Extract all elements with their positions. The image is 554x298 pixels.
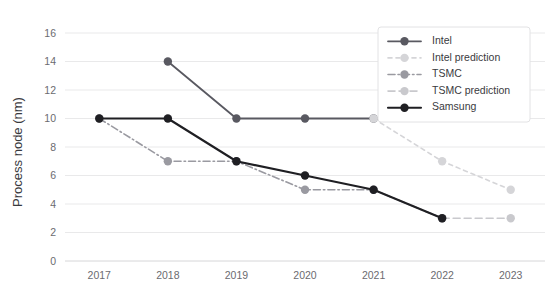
legend-marker-swatch [400,54,408,62]
y-axis-tick-label: 16 [44,27,56,39]
data-point [301,114,309,122]
x-axis-tick-label: 2019 [225,269,249,281]
series-intel-prediction [369,114,515,194]
x-axis-tick-label: 2023 [499,269,523,281]
data-point [438,214,446,222]
legend-marker-swatch [400,104,408,112]
y-axis-tick-labels: 0246810121416 [44,27,56,267]
y-axis-tick-label: 4 [50,198,56,210]
data-point [507,186,515,194]
data-point [369,114,377,122]
x-axis-tick-labels: 2017201820192020202120222023 [88,269,523,281]
chart-legend: IntelIntel predictionTSMCTSMC prediction… [378,27,530,122]
legend-item-label: TSMC [432,67,462,79]
data-point [301,171,309,179]
x-axis-tick-label: 2022 [430,269,454,281]
legend-item-label: Samsung [432,100,477,112]
data-point [232,114,240,122]
legend-marker-swatch [400,70,408,78]
data-point [95,114,103,122]
x-axis-tick-label: 2017 [88,269,112,281]
series-line [99,119,442,219]
y-axis-tick-label: 8 [50,141,56,153]
data-point [232,157,240,165]
y-axis-tick-label: 12 [44,84,56,96]
y-axis-tick-label: 2 [50,226,56,238]
legend-item-label: TSMC prediction [432,84,510,96]
data-point [438,157,446,165]
legend-item-label: Intel prediction [432,51,500,63]
data-point [164,114,172,122]
data-point [507,214,515,222]
data-point [301,186,309,194]
line-chart: 0246810121416 20172018201920202021202220… [0,0,554,298]
y-axis-tick-label: 14 [44,55,56,67]
legend-marker-swatch [400,37,408,45]
series-tsmc-prediction [438,214,515,222]
y-axis-tick-label: 10 [44,112,56,124]
y-axis-tick-label: 6 [50,169,56,181]
y-axis-label: Process node (nm) [10,97,25,207]
y-axis-tick-label: 0 [50,255,56,267]
x-axis-tick-label: 2021 [362,269,386,281]
x-axis-tick-label: 2020 [293,269,317,281]
series-line [374,119,511,190]
data-point [164,57,172,65]
x-axis-tick-label: 2018 [156,269,180,281]
legend-item-label: Intel [432,34,452,46]
chart-container: 0246810121416 20172018201920202021202220… [0,0,554,298]
data-point [164,157,172,165]
legend-marker-swatch [400,87,408,95]
data-point [369,186,377,194]
